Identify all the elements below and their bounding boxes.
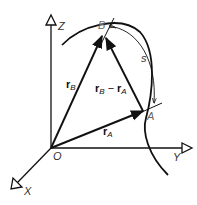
diagram-canvas: Z Y X O B A s rB rB−rA rA [0,0,197,205]
point-b-label: B [98,20,105,31]
z-axis-label: Z [58,21,65,32]
z-axis [46,15,56,148]
vector-r-b-minus-r-a [106,38,143,111]
origin-label: O [53,151,62,162]
point-a-label: A [147,111,154,122]
vector-r-b-label: rB [66,79,76,92]
y-axis-label: Y [173,152,180,163]
y-axis [51,143,192,153]
space-curve [62,23,168,175]
vector-r-b-minus-r-a-label: rB−rA [95,83,127,96]
x-axis-label: X [24,186,31,197]
x-axis [11,148,51,189]
vector-r-a-label: rA [103,126,113,139]
z-axis-arrowhead-icon [46,15,56,25]
y-axis-arrowhead-icon [182,143,192,153]
arc-length-label: s [141,53,147,64]
